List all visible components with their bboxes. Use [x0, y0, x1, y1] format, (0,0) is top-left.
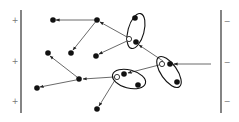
node-filled-n10: [167, 61, 173, 67]
arrow-8: [50, 56, 77, 77]
node-filled-n17: [94, 106, 100, 112]
node-filled-n4: [45, 50, 51, 56]
electrode-plates: +++−−−: [12, 10, 231, 113]
node-hollow-n7: [126, 36, 131, 41]
node-filled-n14: [135, 82, 141, 88]
arrow-4: [139, 45, 163, 61]
node-filled-n6: [132, 15, 138, 21]
diagram-canvas: +++−−−: [0, 0, 239, 122]
node-filled-n11: [174, 79, 180, 85]
node-filled-n15: [76, 76, 82, 82]
right-plate-sign-2: −: [224, 97, 231, 106]
ellipse-e2: [152, 53, 186, 92]
left-plate-sign-1: +: [12, 57, 19, 66]
node-filled-n8: [133, 39, 139, 45]
arrow-7: [83, 77, 114, 79]
node-hollow-n12: [114, 74, 119, 79]
arrow-3: [99, 41, 127, 54]
charge-transfer-diagram: +++−−−: [0, 0, 239, 122]
arrow-10: [99, 80, 115, 106]
nodes-group: [34, 15, 180, 112]
right-plate-sign-1: −: [224, 58, 231, 67]
node-filled-n5: [93, 53, 99, 59]
left-plate-sign-0: +: [12, 16, 19, 25]
node-filled-n2: [94, 17, 100, 23]
arrows-group: [40, 20, 211, 106]
node-hollow-n9: [159, 61, 164, 66]
node-filled-n3: [68, 50, 74, 56]
arrow-1: [73, 20, 97, 50]
ellipses-group: [110, 12, 186, 93]
node-filled-n13: [121, 71, 127, 77]
node-filled-n16: [34, 85, 40, 91]
arrow-2: [100, 22, 127, 37]
left-plate-sign-2: +: [12, 97, 19, 106]
node-filled-n1: [50, 17, 56, 23]
arrow-9: [40, 80, 76, 87]
right-plate-sign-0: −: [224, 17, 231, 26]
arrow-6: [128, 65, 159, 73]
